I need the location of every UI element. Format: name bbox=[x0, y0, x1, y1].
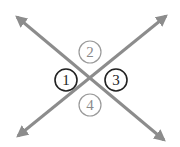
vertical-angles-diagram: 2 1 3 4 bbox=[0, 0, 180, 147]
line-b bbox=[18, 16, 166, 136]
angle-3-marker: 3 bbox=[105, 69, 127, 91]
angle-4-label: 4 bbox=[86, 97, 94, 113]
angle-1-marker: 1 bbox=[55, 69, 77, 91]
angle-4-marker: 4 bbox=[79, 94, 101, 116]
angle-2-label: 2 bbox=[86, 44, 94, 60]
angle-2-marker: 2 bbox=[79, 41, 101, 63]
angle-1-label: 1 bbox=[62, 72, 70, 88]
angle-3-label: 3 bbox=[112, 72, 120, 88]
